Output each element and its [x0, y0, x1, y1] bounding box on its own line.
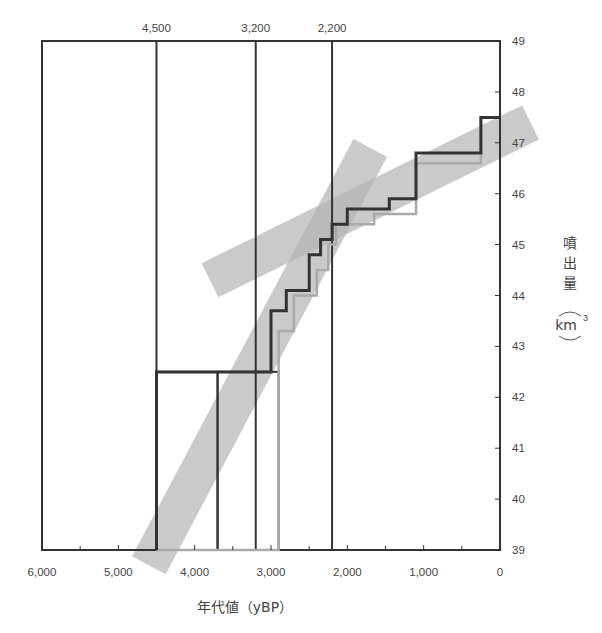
- y-tick-label: 47: [512, 137, 525, 149]
- x-axis-title: 年代値（yBP）: [197, 599, 293, 615]
- reference-line-label: 4,500: [142, 22, 171, 34]
- x-tick-label: 0: [497, 566, 503, 578]
- y-axis-title: 噴出量km3: [555, 235, 588, 340]
- reference-line-label: 2,200: [318, 22, 347, 34]
- trend-bands: [132, 105, 539, 574]
- x-tick-label: 1,000: [409, 566, 438, 578]
- y-unit-superscript: 3: [583, 313, 588, 323]
- y-tick-label: 45: [512, 239, 525, 251]
- y-tick-label: 49: [512, 35, 525, 47]
- svg-text:噴: 噴: [563, 235, 577, 251]
- y-tick-label: 44: [512, 290, 525, 302]
- y-tick-label: 39: [512, 544, 525, 556]
- x-tick-label: 5,000: [104, 566, 133, 578]
- trend-band-2: [202, 105, 539, 297]
- y-unit: km: [555, 317, 577, 333]
- svg-text:出: 出: [563, 255, 577, 271]
- x-tick-label: 2,000: [333, 566, 362, 578]
- y-tick-label: 40: [512, 493, 525, 505]
- x-tick-label: 4,000: [180, 566, 209, 578]
- x-tick-label: 3,000: [257, 566, 286, 578]
- y-tick-label: 48: [512, 86, 525, 98]
- y-tick-label: 43: [512, 340, 525, 352]
- svg-text:量: 量: [563, 275, 577, 291]
- y-tick-label: 42: [512, 391, 525, 403]
- x-tick-label: 6,000: [28, 566, 57, 578]
- reference-line-label: 3,200: [241, 22, 270, 34]
- y-tick-label: 41: [512, 442, 525, 454]
- paren-close: [559, 336, 581, 340]
- y-tick-label: 46: [512, 188, 525, 200]
- volume-vs-age-chart: 4,5003,2002,200 6,0005,0004,0003,0002,00…: [0, 0, 602, 633]
- paren-open: [559, 312, 581, 316]
